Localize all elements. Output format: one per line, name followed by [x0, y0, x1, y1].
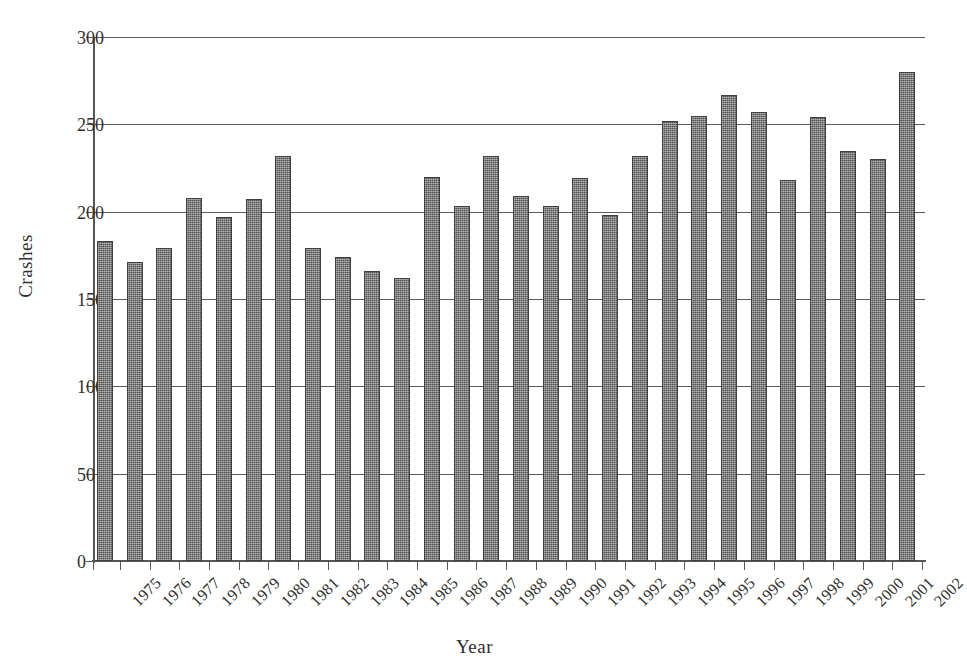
x-tick-mark	[150, 562, 151, 570]
x-tick-label: 1984	[396, 574, 432, 610]
x-tick-label: 1993	[664, 574, 700, 610]
bar	[246, 199, 262, 561]
bar	[840, 151, 856, 561]
bar	[216, 217, 232, 561]
x-tick-mark	[625, 562, 626, 570]
y-tick-label: 150	[77, 290, 79, 311]
x-tick-label: 1992	[634, 574, 670, 610]
plot-area: 050100150200250300	[93, 38, 925, 562]
y-tick-label: 300	[77, 28, 79, 49]
x-tick-label: 2001	[901, 574, 937, 610]
y-tick-label: 50	[77, 464, 79, 485]
x-tick-mark	[892, 562, 893, 570]
x-tick-mark	[328, 562, 329, 570]
x-tick-mark	[833, 562, 834, 570]
x-tick-label: 1987	[485, 574, 521, 610]
bar	[513, 196, 529, 561]
x-tick-mark	[863, 562, 864, 570]
x-tick-mark	[803, 562, 804, 570]
bar	[632, 156, 648, 561]
y-tick-label: 100	[77, 377, 79, 398]
y-tick-label: 200	[77, 202, 79, 223]
x-tick-label: 1999	[842, 574, 878, 610]
x-tick-label: 1981	[307, 574, 343, 610]
gridline	[93, 37, 925, 38]
x-tick-mark	[447, 562, 448, 570]
bar	[394, 278, 410, 561]
x-tick-label: 1978	[218, 574, 254, 610]
x-tick-label: 1996	[753, 574, 789, 610]
x-tick-label: 1990	[574, 574, 610, 610]
x-tick-mark	[387, 562, 388, 570]
bar	[424, 177, 440, 561]
bar	[572, 178, 588, 561]
bar	[483, 156, 499, 561]
x-tick-mark	[209, 562, 210, 570]
bar	[543, 206, 559, 561]
x-tick-mark	[684, 562, 685, 570]
x-tick-mark	[268, 562, 269, 570]
x-tick-mark	[922, 562, 923, 570]
bar	[97, 241, 113, 561]
bar	[454, 206, 470, 561]
x-tick-mark	[417, 562, 418, 570]
bar	[810, 117, 826, 561]
bar	[335, 257, 351, 561]
bar	[305, 248, 321, 561]
x-tick-label: 2002	[931, 574, 967, 610]
x-tick-mark	[655, 562, 656, 570]
x-tick-mark	[595, 562, 596, 570]
x-tick-mark	[93, 562, 94, 570]
x-tick-mark	[566, 562, 567, 570]
x-tick-mark	[506, 562, 507, 570]
gridline	[93, 124, 925, 125]
bar	[127, 262, 143, 561]
x-tick-mark	[179, 562, 180, 570]
bar	[691, 116, 707, 561]
x-tick-mark	[358, 562, 359, 570]
x-axis-label: Year	[0, 636, 949, 658]
bar	[899, 72, 915, 561]
bar	[662, 121, 678, 561]
x-tick-mark	[239, 562, 240, 570]
bar	[275, 156, 291, 561]
x-tick-label: 1997	[782, 574, 818, 610]
x-tick-mark	[298, 562, 299, 570]
bar	[751, 112, 767, 561]
x-tick-label: 1982	[337, 574, 373, 610]
x-tick-label: 1994	[693, 574, 729, 610]
x-tick-mark	[774, 562, 775, 570]
x-tick-mark	[536, 562, 537, 570]
x-tick-mark	[744, 562, 745, 570]
x-tick-label: 1998	[812, 574, 848, 610]
gridline	[93, 212, 925, 213]
x-tick-label: 1988	[515, 574, 551, 610]
y-tick-label: 0	[77, 552, 79, 573]
y-axis-label: Crashes	[15, 206, 37, 326]
bar	[870, 159, 886, 561]
x-tick-label: 1977	[188, 574, 224, 610]
x-tick-mark	[120, 562, 121, 570]
bar	[186, 198, 202, 561]
x-tick-label: 1989	[545, 574, 581, 610]
bar	[780, 180, 796, 561]
x-tick-mark	[714, 562, 715, 570]
bar	[721, 95, 737, 561]
x-tick-label: 2000	[872, 574, 908, 610]
bar	[156, 248, 172, 561]
bar	[602, 215, 618, 561]
x-tick-label: 1976	[158, 574, 194, 610]
bar	[364, 271, 380, 561]
x-tick-mark	[476, 562, 477, 570]
x-tick-label: 1991	[604, 574, 640, 610]
x-tick-label: 1985	[426, 574, 462, 610]
x-tick-label: 1980	[277, 574, 313, 610]
x-tick-label: 1995	[723, 574, 759, 610]
x-tick-label: 1986	[456, 574, 492, 610]
x-tick-label: 1983	[366, 574, 402, 610]
y-tick-label: 250	[77, 115, 79, 136]
x-tick-label: 1975	[129, 574, 165, 610]
x-tick-label: 1979	[248, 574, 284, 610]
